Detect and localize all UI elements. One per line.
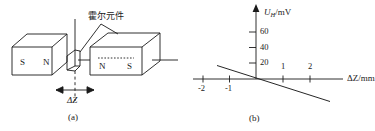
y-tick-label-40: 40 (260, 43, 269, 52)
y-axis-arrowhead (253, 4, 260, 12)
x-tick-label-2: 2 (308, 62, 312, 71)
data-line-series-0 (217, 66, 330, 102)
y-axis-ticks (249, 32, 256, 63)
y-tick-label-60: 60 (260, 27, 269, 36)
x-tick-label-neg1: -1 (225, 84, 232, 93)
y-tick-label-20: 20 (260, 58, 269, 67)
x-tick-label-1: 1 (281, 62, 285, 71)
y-axis-label: UH/mV (264, 8, 291, 19)
panel-b-caption: (b) (249, 114, 260, 123)
x-tick-label-neg2: -2 (198, 84, 205, 93)
x-axis-label: ΔZ/mm (347, 74, 375, 83)
y-axis-label-unit: /mV (275, 7, 291, 17)
